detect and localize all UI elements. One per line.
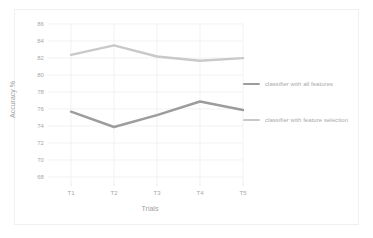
vertical-gridlines bbox=[71, 24, 243, 183]
y-tick-label: 74 bbox=[28, 123, 44, 129]
y-tick-label: 70 bbox=[28, 157, 44, 163]
y-tick-label: 78 bbox=[28, 89, 44, 95]
line-chart-figure: 86 84 82 80 78 76 74 72 70 68 T1 T2 T3 T… bbox=[0, 0, 373, 238]
x-tick-label: T2 bbox=[104, 190, 124, 196]
y-tick-label: 84 bbox=[28, 38, 44, 44]
y-tick-label: 86 bbox=[28, 21, 44, 27]
x-axis-title: Trials bbox=[60, 205, 240, 212]
x-tick-label: T5 bbox=[233, 190, 253, 196]
y-tick-label: 82 bbox=[28, 55, 44, 61]
chart-legend: classifier with all features classifier … bbox=[243, 80, 363, 152]
x-tick-label: T4 bbox=[190, 190, 210, 196]
y-tick-label: 72 bbox=[28, 140, 44, 146]
horizontal-gridlines bbox=[48, 24, 243, 177]
legend-item-label: classifier with all features bbox=[265, 80, 363, 88]
legend-item-label: classifier with feature selection bbox=[265, 116, 363, 124]
y-axis-title: Accuracy % bbox=[9, 70, 16, 130]
x-axis-tick-marks bbox=[71, 183, 243, 186]
y-tick-label: 68 bbox=[28, 174, 44, 180]
y-tick-label: 76 bbox=[28, 106, 44, 112]
legend-item-feature-selection[interactable]: classifier with feature selection bbox=[243, 116, 363, 132]
x-tick-label: T1 bbox=[61, 190, 81, 196]
legend-swatch-icon bbox=[243, 119, 260, 121]
x-tick-label: T3 bbox=[147, 190, 167, 196]
legend-item-all-features[interactable]: classifier with all features bbox=[243, 80, 363, 96]
y-tick-label: 80 bbox=[28, 72, 44, 78]
legend-swatch-icon bbox=[243, 83, 260, 85]
